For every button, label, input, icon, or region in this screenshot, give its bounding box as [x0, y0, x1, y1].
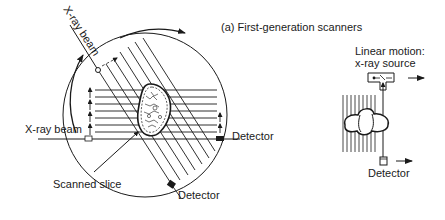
- detector-right-label: Detector: [232, 130, 274, 142]
- xray-beam-horizontal-label: X-ray beam: [25, 123, 82, 135]
- detector-linear-marker: [380, 157, 387, 165]
- translate-arrow-diagonal: [102, 58, 117, 66]
- linear-motion-diagram: Linear motion: x-ray source: [343, 45, 425, 179]
- ct-scanner-diagram: (a) First-generation scanners: [0, 0, 445, 220]
- xray-beam-diagonal-label: X-ray beam: [61, 4, 102, 58]
- xray-source-diagonal: [96, 68, 101, 73]
- scanned-slice-pointer: [94, 132, 138, 172]
- detector-linear-label: Detector: [368, 167, 410, 179]
- linear-motion-label-1: Linear motion:: [355, 45, 425, 57]
- scanned-slice-label: Scanned slice: [53, 178, 122, 190]
- rotation-arrow-left: [70, 55, 83, 133]
- scanned-object: [138, 84, 171, 136]
- xray-source-horizontal: [85, 136, 92, 141]
- detector-right-marker: [216, 136, 224, 141]
- figure-title: (a) First-generation scanners: [221, 21, 363, 33]
- linear-motion-label-2: x-ray source: [355, 57, 416, 69]
- detector-bottom-label: Detector: [178, 189, 220, 201]
